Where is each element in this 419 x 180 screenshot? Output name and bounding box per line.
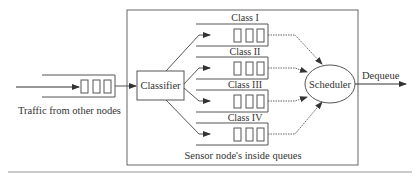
class-label-4: Class IV xyxy=(228,112,264,123)
dequeue-label: Dequeue xyxy=(362,70,400,81)
scheduler-label: Scheduler xyxy=(309,79,351,90)
class-label-1: Class I xyxy=(231,12,259,23)
input-label: Traffic from other nodes xyxy=(18,105,121,116)
classifier-label: Classifier xyxy=(140,80,181,91)
class-queue-2: Class II xyxy=(196,46,268,79)
class-queue-3: Class III xyxy=(196,79,268,112)
input-queue xyxy=(16,75,115,97)
class-label-3: Class III xyxy=(228,79,262,90)
class-queue-4: Class IV xyxy=(196,112,268,145)
box-caption: Sensor node's inside queues xyxy=(184,150,301,161)
class-queue-1: Class I xyxy=(196,12,268,46)
queue-diagram: Traffic from other nodes Classifier Clas… xyxy=(0,0,419,180)
class-label-2: Class II xyxy=(230,46,261,57)
